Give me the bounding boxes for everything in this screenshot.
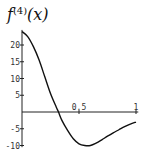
y-tick-label: 5 (15, 91, 20, 100)
chart: f(4)(x) -10-551015200.51 (0, 0, 142, 154)
y-tick-label: -10 (6, 142, 21, 151)
series-line (22, 32, 136, 146)
x-tick-label: 0.5 (72, 103, 87, 112)
plot-area: -10-551015200.51 (0, 0, 142, 154)
y-tick-label: 10 (10, 75, 20, 84)
y-tick-label: 20 (10, 41, 20, 50)
y-tick-label: 15 (10, 58, 20, 67)
y-tick-label: -5 (10, 125, 20, 134)
x-tick-label: 1 (134, 103, 139, 112)
